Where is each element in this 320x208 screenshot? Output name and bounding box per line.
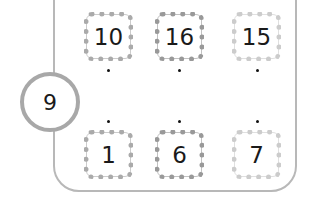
top-box-2-value: 16 [165,24,194,50]
top-box-3-value: 15 [242,24,271,50]
bottom-dot-2 [178,120,181,123]
bottom-dot-3 [256,120,259,123]
hub-circle: 9 [20,72,80,132]
bottom-box-3-value: 7 [249,142,264,168]
bottom-box-1-value: 1 [101,142,116,168]
bottom-box-1: 1 [84,130,133,179]
top-box-1: 10 [84,12,133,61]
top-dot-3 [256,69,259,72]
bottom-box-2: 6 [155,130,204,179]
top-dot-2 [178,69,181,72]
bottom-dot-1 [107,120,110,123]
top-box-1-value: 10 [94,24,123,50]
bottom-box-3: 7 [232,130,281,179]
bottom-box-2-value: 6 [172,142,187,168]
top-box-2: 16 [155,12,204,61]
hub-value: 9 [43,90,57,115]
top-box-3: 15 [232,12,281,61]
top-dot-1 [107,69,110,72]
